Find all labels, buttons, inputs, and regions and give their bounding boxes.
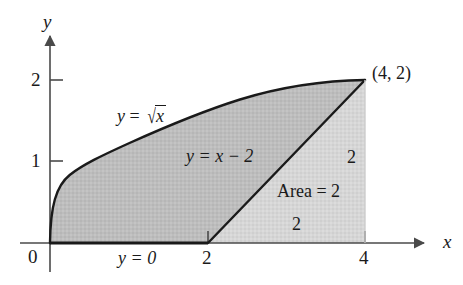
right-side-length-label: 2: [347, 148, 356, 166]
bottom-side-length-label: 2: [292, 215, 301, 233]
sqrt-label-equals: =: [130, 106, 140, 126]
radical-group: √x: [144, 105, 166, 125]
plot-canvas: [0, 0, 463, 285]
y-tick-label-1: 1: [31, 151, 41, 170]
x-tick-label-2: 2: [202, 248, 212, 267]
line-equation-label: y = x − 2: [186, 147, 253, 165]
radical-sign-icon: √: [148, 106, 156, 126]
x-axis-label: x: [443, 232, 451, 251]
y-tick-label-2: 2: [31, 70, 41, 89]
x-tick-label-4: 4: [359, 248, 369, 267]
radicand: x: [155, 105, 166, 125]
calculus-area-figure: y x 0 2 1 2 4 y = √x y = x − 2 y = 0 (4,…: [0, 0, 463, 285]
apex-point-label: (4, 2): [372, 64, 411, 82]
origin-label: 0: [28, 247, 38, 266]
sqrt-label-lhs: y: [117, 106, 125, 126]
sqrt-curve-label: y = √x: [117, 105, 166, 125]
baseline-equation-label: y = 0: [118, 249, 156, 267]
y-axis-label: y: [43, 12, 51, 31]
area-annotation-label: Area = 2: [277, 182, 340, 200]
